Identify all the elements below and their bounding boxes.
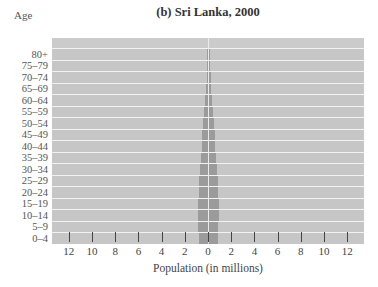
female-bar xyxy=(209,153,216,164)
x-tick-label: 6 xyxy=(128,245,148,257)
male-bar xyxy=(199,233,208,244)
female-bar xyxy=(209,72,211,83)
female-bar xyxy=(209,210,219,221)
female-bar xyxy=(209,118,214,129)
x-axis-label: Population (in millions) xyxy=(52,262,364,274)
age-label: 45–49 xyxy=(0,129,48,140)
x-tick xyxy=(347,232,348,242)
age-label: 40–44 xyxy=(0,141,48,152)
x-tick-label: 4 xyxy=(244,245,264,257)
age-label: 80+ xyxy=(0,49,48,60)
x-tick xyxy=(324,232,325,242)
male-bar xyxy=(199,176,208,187)
age-label: 0–4 xyxy=(0,233,48,244)
x-tick-label: 12 xyxy=(337,245,357,257)
x-tick-label: 4 xyxy=(152,245,172,257)
age-label: 10–14 xyxy=(0,210,48,221)
female-bar xyxy=(209,84,211,95)
age-label: 75–79 xyxy=(0,60,48,71)
age-label: 35–39 xyxy=(0,152,48,163)
x-tick xyxy=(185,232,186,242)
x-tick-label: 2 xyxy=(221,245,241,257)
female-bar xyxy=(209,95,212,106)
female-bar xyxy=(209,61,210,72)
x-tick xyxy=(115,232,116,242)
x-tick xyxy=(162,232,163,242)
male-bar xyxy=(199,187,208,198)
x-tick-label: 6 xyxy=(268,245,288,257)
x-tick xyxy=(92,232,93,242)
age-axis-header: Age xyxy=(14,9,32,21)
x-tick-label: 10 xyxy=(314,245,334,257)
x-tick-label: 2 xyxy=(175,245,195,257)
x-tick xyxy=(231,232,232,242)
female-bar xyxy=(209,164,217,175)
age-label: 55–59 xyxy=(0,106,48,117)
female-bar xyxy=(209,130,215,141)
age-label: 50–54 xyxy=(0,118,48,129)
x-tick-label: 8 xyxy=(105,245,125,257)
age-label: 65–69 xyxy=(0,83,48,94)
x-tick-label: 12 xyxy=(59,245,79,257)
female-bar xyxy=(209,222,218,233)
x-tick-label: 8 xyxy=(291,245,311,257)
x-tick-label: 10 xyxy=(82,245,102,257)
chart-title: (b) Sri Lanka, 2000 xyxy=(52,5,364,20)
x-tick xyxy=(254,232,255,242)
age-label: 25–29 xyxy=(0,175,48,186)
age-label: 20–24 xyxy=(0,187,48,198)
female-bar xyxy=(209,49,210,60)
female-bar xyxy=(209,176,218,187)
age-label: 30–34 xyxy=(0,164,48,175)
male-bar xyxy=(198,199,208,210)
x-tick xyxy=(69,232,70,242)
age-label: 15–19 xyxy=(0,198,48,209)
center-divider xyxy=(208,38,209,243)
age-label: 5–9 xyxy=(0,221,48,232)
female-bar xyxy=(209,233,218,244)
x-tick xyxy=(278,232,279,242)
female-bar xyxy=(209,141,215,152)
x-tick-label: 0 xyxy=(198,245,218,257)
female-bar xyxy=(209,187,218,198)
x-tick xyxy=(138,232,139,242)
x-tick xyxy=(208,232,209,242)
male-bar xyxy=(198,222,208,233)
plot-area: Males Females xyxy=(52,38,364,243)
male-bar xyxy=(201,153,208,164)
age-label: 70–74 xyxy=(0,72,48,83)
age-label: 60–64 xyxy=(0,95,48,106)
female-bar xyxy=(209,199,219,210)
female-bar xyxy=(209,107,213,118)
male-bar xyxy=(200,164,208,175)
x-tick xyxy=(301,232,302,242)
male-bar xyxy=(198,210,208,221)
